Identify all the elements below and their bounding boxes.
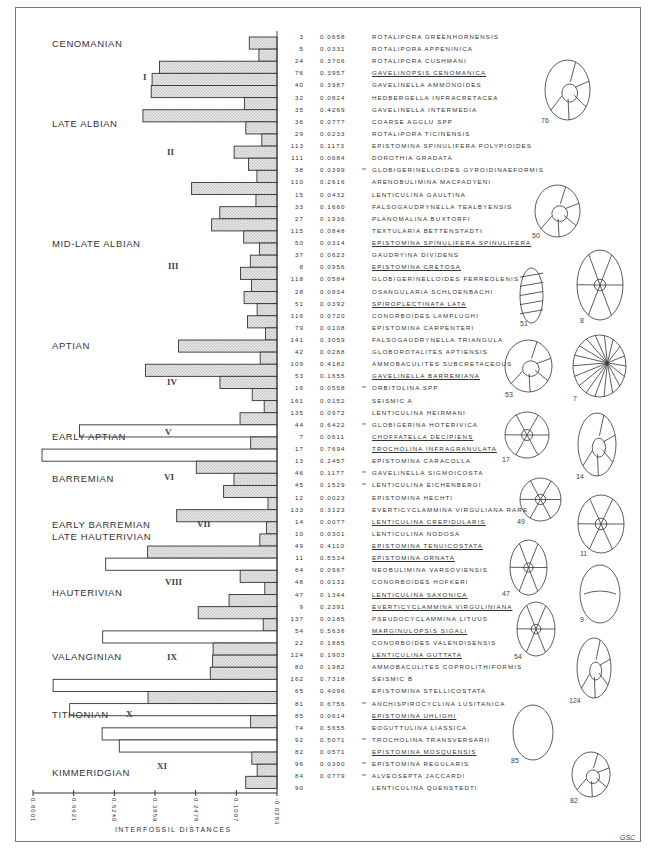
taxon-name: GLOBIGERINELLOIDES GYROIDINAEFORMIS [372,164,544,176]
taxon-name: EVERTICYCLAMMINA VIRGULINIANA [372,601,512,613]
taxon-number: 48 [282,576,304,588]
illustration-number: 51 [520,320,528,327]
distance-value: 0.6422 [320,419,346,431]
illustration-number: 17 [502,456,510,463]
taxon-number: 12 [282,492,304,504]
distance-value: 0.4269 [320,104,346,116]
merge-box [263,619,277,631]
taxon-number: 74 [282,722,304,734]
distance-value: 0.0658 [320,31,346,43]
taxon-name: SEISMIC B [372,673,413,685]
double-asterisk-marker: ** [362,419,366,431]
double-asterisk-marker: ** [362,770,366,782]
taxon-number: 85 [282,710,304,722]
taxon-name: GAUDRYINA DIVIDENS [372,249,459,261]
merge-box [229,595,277,607]
taxon-number: 80 [282,661,304,673]
foraminifera-illustration-icon [517,602,555,656]
taxon-number: 90 [282,782,304,794]
merge-box [251,437,277,449]
distance-value: 0.4096 [320,685,346,697]
taxon-name: ALVEOSEPTA JACCARDI [372,770,465,782]
taxon-name: EPISTOMINA MOSQUENSIS [372,746,476,758]
taxon-number: 42 [282,346,304,358]
merge-box [244,98,277,110]
illustration-number: 53 [505,391,513,398]
foraminifera-illustration-icon [545,60,590,120]
merge-box [224,485,277,497]
taxon-number: 22 [282,637,304,649]
taxon-name: DOROTHIA GRADATA [372,152,453,164]
merge-box [262,134,277,146]
distance-value: 0.0314 [320,237,346,249]
merge-box [257,764,277,776]
taxon-number: 133 [282,504,304,516]
taxon-name: EPISTOMINA SPINULIFERA POLYPIOIDES [372,140,532,152]
taxon-name: TEXTULARIA BETTENSTADTI [372,225,483,237]
taxon-number: 53 [282,370,304,382]
distance-value: 0.0834 [320,286,346,298]
taxon-name: EPISTOMINA CRETOSA [372,261,461,273]
taxon-name: EPISTOMINA TENUICOSTATA [372,540,483,552]
taxon-number: 116 [282,310,304,322]
axis-tick-label: 0.8001 [30,798,36,822]
double-asterisk-marker: ** [362,467,366,479]
taxon-number: 118 [282,273,304,285]
taxon-name: GAVELINOPSIS CENOMANICA [372,67,486,79]
double-asterisk-marker: ** [362,479,366,491]
taxon-number: 115 [282,225,304,237]
distance-value: 0.0584 [320,273,346,285]
taxon-name: EPISTOMINA CARACOLLA [372,455,471,467]
taxon-name: EPISTOMINA HECHTI [372,492,453,504]
stage-label: LATE HAUTERIVIAN [52,530,151,543]
merge-box [244,292,277,304]
taxon-number: 27 [282,213,304,225]
merge-box [42,449,277,461]
distance-value: 0.1903 [320,649,346,661]
foraminifera-illustration-icon [577,250,623,320]
distance-value: 0.2391 [320,601,346,613]
distance-value: 0.0288 [320,346,346,358]
taxon-number: 10 [282,528,304,540]
taxon-number: 76 [282,67,304,79]
taxon-name: LENTICULINA HEIRMANI [372,407,466,419]
illustration-number: 82 [570,797,578,804]
distance-value: 0.0392 [320,298,346,310]
taxon-number: 36 [282,116,304,128]
illustration-number: 76 [541,117,549,124]
distance-value: 0.1173 [320,140,345,152]
taxon-number: 28 [282,286,304,298]
distance-value: 0.0848 [320,225,346,237]
foraminifera-illustration-icon [578,413,616,476]
distance-value: 0.0152 [320,395,346,407]
taxon-number: 137 [282,613,304,625]
taxon-number: 109 [282,358,304,370]
taxon-name: AMMOBACULITES SUBCRETACEOUS [372,358,512,370]
taxon-number: 13 [282,455,304,467]
distance-value: 0.3987 [320,79,346,91]
taxon-name: GAVELINELLA BARREMIANA [372,370,480,382]
taxon-number: 40 [282,79,304,91]
distance-value: 0.3123 [320,504,346,516]
taxon-number: 135 [282,407,304,419]
foraminifera-illustration-icon [505,412,549,458]
merge-box [265,582,277,594]
taxon-name: ANCHISPIROCYCLINA LUSITANICA [372,698,506,710]
stage-label: MID-LATE ALBIAN [52,237,141,250]
taxon-name: LENTICULINA GAULTINA [372,189,466,201]
merge-box [266,522,277,534]
taxon-number: 82 [282,746,304,758]
merge-box [220,376,277,388]
taxon-number: 38 [282,164,304,176]
taxon-name: LENTICULINA GUTTATA [372,649,462,661]
foraminifera-illustration-icon [513,705,553,760]
merge-box [257,170,277,182]
axis-title: INTERFOSSIL DISTANCES [115,826,232,833]
stage-label: EARLY APTIAN [52,430,126,443]
taxon-name: GAVELINELLA SIGMOICOSTA [372,467,483,479]
taxon-name: ROTALIPORA GREENHORNENSIS [372,31,499,43]
taxon-number: 110 [282,176,304,188]
distance-value: 0.1177 [320,467,345,479]
taxon-name: GLOBIGERINA HOTERIVICA [372,419,478,431]
taxon-name: GAVELINELLA AMMONOIDES [372,79,482,91]
